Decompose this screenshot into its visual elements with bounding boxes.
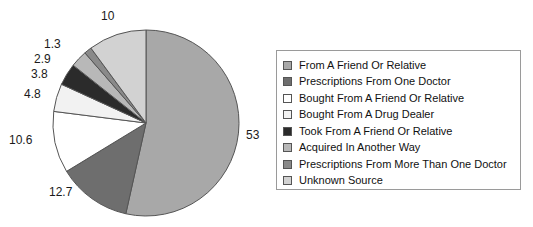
legend-swatch-icon (283, 127, 292, 136)
legend-swatch-icon (283, 176, 292, 185)
pie-svg (0, 0, 268, 227)
pie-value-label: 1.3 (44, 38, 61, 50)
legend-item[interactable]: Prescriptions From One Doctor (283, 74, 520, 91)
pie-value-label: 4.8 (24, 88, 41, 100)
legend-item[interactable]: Took From A Friend Or Relative (283, 123, 520, 140)
pie-value-label: 2.9 (34, 53, 51, 65)
legend-item-label: Prescriptions From More Than One Doctor (299, 159, 507, 170)
pie-value-label: 12.7 (49, 186, 72, 198)
pie-slices-group (53, 30, 239, 216)
legend-swatch-icon (283, 143, 292, 152)
pie-value-label: 53 (246, 129, 259, 141)
legend-rows: From A Friend Or RelativePrescriptions F… (283, 57, 520, 189)
legend-item[interactable]: From A Friend Or Relative (283, 57, 520, 74)
legend-box: From A Friend Or RelativePrescriptions F… (276, 50, 521, 190)
legend-item-label: Acquired In Another Way (299, 142, 420, 153)
pie-value-label: 10.6 (9, 134, 32, 146)
pie-value-label: 3.8 (31, 68, 48, 80)
pie-chart-figure: 101.32.93.84.810.612.753 From A Friend O… (0, 0, 533, 227)
legend-item-label: Bought From A Drug Dealer (299, 109, 434, 120)
legend-item[interactable]: Bought From A Friend Or Relative (283, 90, 520, 107)
legend-item[interactable]: Acquired In Another Way (283, 140, 520, 157)
legend-item-label: Prescriptions From One Doctor (299, 76, 451, 87)
pie-value-label: 10 (101, 10, 114, 22)
legend-item-label: Unknown Source (299, 175, 383, 186)
legend-swatch-icon (283, 94, 292, 103)
pie-plot-area: 101.32.93.84.810.612.753 (0, 0, 268, 227)
legend-item[interactable]: Unknown Source (283, 173, 520, 190)
legend-swatch-icon (283, 110, 292, 119)
legend-item-label: Bought From A Friend Or Relative (299, 93, 464, 104)
legend-item-label: Took From A Friend Or Relative (299, 126, 452, 137)
legend-swatch-icon (283, 160, 292, 169)
legend-item[interactable]: Prescriptions From More Than One Doctor (283, 156, 520, 173)
legend-swatch-icon (283, 77, 292, 86)
legend-item-label: From A Friend Or Relative (299, 60, 426, 71)
legend-swatch-icon (283, 61, 292, 70)
legend-item[interactable]: Bought From A Drug Dealer (283, 107, 520, 124)
